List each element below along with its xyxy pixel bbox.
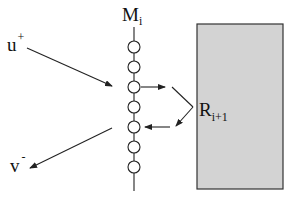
chain-node (128, 141, 140, 153)
outgoing-label-main: v (10, 155, 20, 176)
chain-label: Mi (122, 4, 143, 28)
region-bracket-upper (172, 87, 193, 107)
diagram-canvas: Mi u+ v- Ri+1 (0, 0, 292, 200)
region-bracket-lower (176, 107, 193, 126)
chain-node (128, 121, 140, 133)
chain-node (128, 81, 140, 93)
chain-node (128, 61, 140, 73)
region-label-main: R (199, 99, 212, 120)
incoming-label-main: u (7, 34, 17, 55)
chain-nodes (128, 41, 140, 173)
outgoing-label: v- (10, 150, 26, 176)
incoming-arrow (27, 48, 112, 86)
chain-node (128, 101, 140, 113)
outgoing-arrow (30, 128, 112, 168)
chain-node (128, 161, 140, 173)
region-label-sub: i+1 (212, 110, 228, 124)
outgoing-label-sup: - (22, 150, 26, 164)
incoming-label-sup: + (18, 30, 25, 44)
chain-label-main: M (122, 4, 139, 25)
chain-label-sub: i (139, 14, 143, 28)
incoming-label: u+ (7, 30, 25, 55)
chain-node (128, 41, 140, 53)
